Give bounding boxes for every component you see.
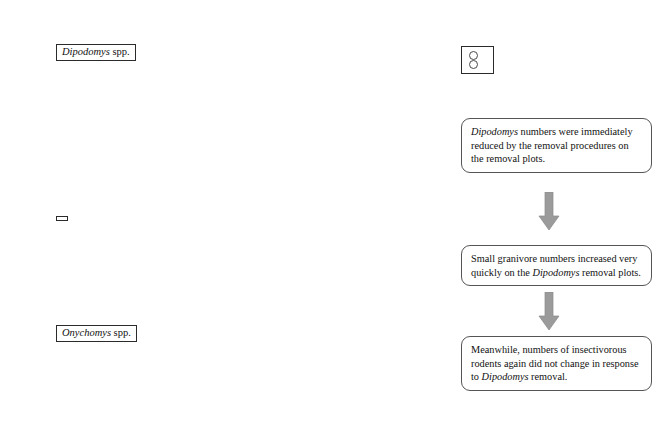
panel-title-small-granivores (56, 216, 68, 221)
callout-granivores: Small granivore numbers increased very q… (461, 245, 652, 286)
legend-item-removal (469, 60, 484, 69)
legend-item-control (469, 51, 484, 60)
panel-title-onychomys: Onychomys spp. (56, 325, 137, 342)
panel-title-dipodomys: Dipodomys spp. (56, 44, 136, 61)
callout-dipodomys: Dipodomys numbers were immediately reduc… (461, 118, 652, 173)
down-arrow-icon-1 (538, 192, 560, 236)
callout-onychomys: Meanwhile, numbers of insectivorous rode… (461, 336, 652, 391)
control-plots-marker-icon (469, 51, 478, 60)
down-arrow-icon-2 (538, 292, 560, 336)
removal-plots-marker-icon (469, 60, 478, 69)
legend (461, 46, 494, 74)
figure-root: Dipodomys spp. Onychomys spp. Dipodomys … (0, 0, 658, 429)
